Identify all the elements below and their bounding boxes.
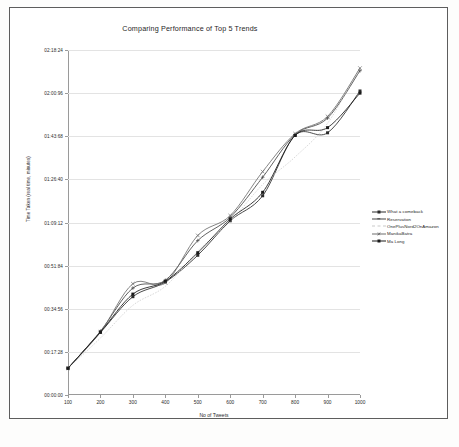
x-tick-label: 1000 [355,400,366,405]
legend-swatch-icon [372,230,386,237]
data-point-marker [164,280,167,283]
legend-item-1[interactable]: What a comeback [372,208,448,215]
chart-legend: What a comebackReservationOnePlusNord2On… [372,208,448,245]
data-point-marker [359,92,362,95]
legend-swatch-icon [372,216,386,223]
series-line [68,68,360,368]
data-point-marker [131,282,135,286]
legend-item-4[interactable]: ManikaBatra [372,230,448,237]
x-tick-mark [133,395,134,398]
data-point-marker [261,194,264,197]
x-tick-label: 300 [129,400,137,405]
x-tick-label: 200 [96,400,104,405]
data-point-marker [261,191,264,194]
figure-caption [30,432,442,446]
legend-swatch-icon [372,208,386,215]
series-line [68,67,360,368]
y-tick-label: 00:17:28 [44,349,63,354]
legend-item-5[interactable]: Ma Long [372,238,448,245]
series-line [68,91,360,368]
x-tick-mark [360,395,361,398]
series-2 [66,69,362,370]
legend-label: What a comeback [387,209,423,214]
data-point-marker [229,218,232,221]
x-tick-label: 400 [161,400,169,405]
legend-item-2[interactable]: Reservation [372,215,448,222]
y-axis-title: Time Taken (real time, minutes) [26,156,31,222]
data-point-marker [99,331,102,334]
data-point-marker [294,134,297,137]
chart-title: Comparing Performance of Top 5 Trends [10,24,370,33]
data-point-marker [131,293,134,296]
x-tick-label: 100 [64,400,72,405]
x-tick-mark [198,395,199,398]
data-point-marker [131,295,134,298]
series-3 [68,67,360,368]
series-5 [67,92,362,370]
x-tick-mark [328,395,329,398]
x-tick-label: 700 [259,400,267,405]
legend-swatch-icon [372,238,386,245]
data-point-marker [196,234,200,238]
chart-frame: Comparing Performance of Top 5 Trends Ti… [9,7,448,419]
y-tick-label: 02:18:24 [44,48,63,53]
legend-label: Reservation [387,217,411,222]
series-4 [66,66,362,370]
x-tick-label: 600 [226,400,234,405]
y-tick-label: 01:43:68 [44,134,63,139]
legend-label: OnePlusNord2OnAmazon [387,224,439,229]
legend-swatch-icon [372,223,386,230]
y-tick-label: 02:00:96 [44,91,63,96]
data-point-marker [261,170,265,174]
data-point-marker [326,126,329,129]
x-tick-mark [295,395,296,398]
x-tick-label: 900 [324,400,332,405]
data-point-marker [67,367,70,370]
legend-label: Ma Long [387,239,404,244]
x-tick-mark [165,395,166,398]
x-tick-mark [100,395,101,398]
x-tick-mark [68,395,69,398]
x-tick-label: 800 [291,400,299,405]
series-lines [68,50,360,395]
y-tick-label: 00:00:00 [44,393,63,398]
series-line [68,71,360,369]
legend-item-3[interactable]: OnePlusNord2OnAmazon [372,223,448,230]
plot-area: 00:00:0000:17:2800:34:5600:51:8401:09:12… [68,50,360,395]
y-tick-label: 01:09:12 [44,220,63,225]
x-tick-label: 500 [194,400,202,405]
x-tick-mark [230,395,231,398]
x-axis-title: No of Tweets [68,412,360,418]
y-tick-label: 00:34:56 [44,306,63,311]
figure-container: Comparing Performance of Top 5 Trends Ti… [0,0,459,447]
y-tick-label: 00:51:84 [44,263,63,268]
legend-label: ManikaBatra [387,231,412,236]
y-tick-label: 01:26:40 [44,177,63,182]
data-point-marker [196,251,199,254]
data-point-marker [326,131,329,134]
x-tick-mark [263,395,264,398]
